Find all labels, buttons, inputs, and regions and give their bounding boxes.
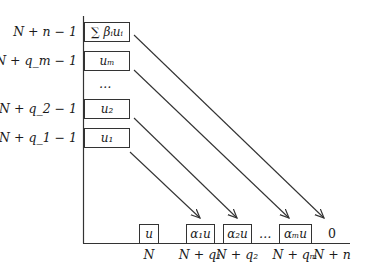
y-label-n: N + n − 1 (13, 25, 77, 39)
box-um: uₘ (84, 51, 130, 71)
box-u2: u₂ (84, 99, 130, 119)
y-label-qm: N + q_m − 1 (0, 54, 77, 68)
box-alpha2-u: α₂u (223, 224, 252, 244)
box-sum-beta-u: ∑ βᵢuᵢ (84, 22, 130, 42)
y-label-q2: N + q_2 − 1 (0, 102, 77, 116)
x-label-n: N + n (302, 248, 362, 262)
arrow-u2-to-a2u (134, 118, 237, 218)
zero-value: 0 (328, 227, 336, 241)
box-u: u (139, 224, 159, 244)
box-alpha1-u: α₁u (186, 224, 215, 244)
x-label-q2: N + q₂ (207, 248, 267, 262)
arrow-u1-to-a1u (130, 152, 200, 218)
box-u1: u₁ (84, 128, 130, 148)
y-label-q1: N + q_1 − 1 (0, 131, 77, 145)
bottom-ellipsis: … (259, 227, 272, 241)
left-ellipsis: … (99, 77, 112, 91)
arrow-sum-to-zero (134, 35, 324, 218)
arrow-um-to-amu (134, 70, 289, 218)
box-alpham-u: αₘu (279, 224, 312, 244)
